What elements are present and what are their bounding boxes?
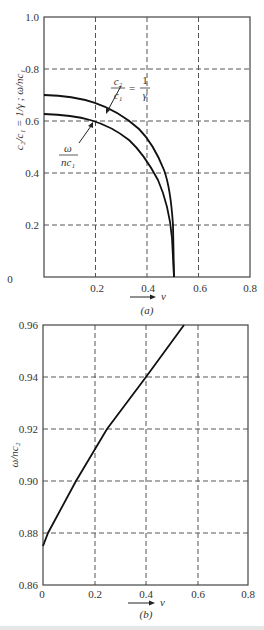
- chart-a: c₂ c₁ = 1 γ ω nc₁ 0.2 0.4 0.6 0.8 1.0 0 …: [7, 11, 257, 317]
- svg-text:0.2: 0.2: [90, 282, 104, 294]
- cropped-caption-strip: [0, 626, 264, 630]
- svg-text:0.8: 0.8: [241, 588, 255, 600]
- chart-b-x-ticks: 0 0.2 0.4 0.6 0.8: [39, 588, 255, 600]
- svg-text:0.6: 0.6: [193, 282, 207, 294]
- svg-text:0.86: 0.86: [19, 579, 39, 591]
- svg-text:c₂: c₂: [114, 75, 123, 87]
- svg-text:0.6: 0.6: [25, 115, 39, 127]
- svg-text:nc₁: nc₁: [61, 156, 75, 168]
- svg-text:0.2: 0.2: [88, 588, 102, 600]
- chart-a-xlabel: v: [161, 290, 166, 302]
- annotation-c2-c1: c₂ c₁ = 1 γ: [111, 74, 150, 101]
- svg-text:0.94: 0.94: [19, 371, 39, 383]
- svg-text:0.88: 0.88: [19, 527, 39, 539]
- chart-a-grid: [44, 17, 250, 277]
- annotation-omega-nc1: ω nc₁: [59, 142, 78, 168]
- chart-b-grid: [43, 325, 248, 585]
- chart-a-curve-c2-c1: [44, 95, 174, 277]
- chart-a-x-ticks: 0 0.2 0.4 0.6 0.8: [7, 273, 257, 294]
- chart-b-ylabel: ω/nc₂: [8, 442, 20, 467]
- svg-text:γ: γ: [143, 89, 148, 101]
- svg-text:ω: ω: [64, 142, 72, 154]
- chart-b-xlabel: v: [160, 596, 165, 608]
- svg-text:0.8: 0.8: [243, 282, 257, 294]
- svg-text:0.96: 0.96: [19, 319, 39, 331]
- svg-text:0: 0: [39, 588, 45, 600]
- svg-text:0.92: 0.92: [19, 423, 38, 435]
- svg-text:c₁: c₁: [114, 89, 123, 101]
- chart-a-y-ticks: 0.2 0.4 0.6 0.8 1.0: [25, 11, 39, 231]
- svg-text:0.4: 0.4: [139, 588, 153, 600]
- chart-b-y-ticks: 0.86 0.88 0.90 0.92 0.94 0.96: [19, 319, 39, 591]
- chart-a-ylabel: c₂/c₁ = 1/γ ; ω/nc₁: [13, 70, 25, 151]
- svg-text:0: 0: [7, 273, 13, 285]
- svg-text:0.4: 0.4: [25, 167, 39, 179]
- arrow-right-icon: [150, 295, 156, 300]
- svg-text:1: 1: [142, 74, 148, 86]
- svg-text:0.90: 0.90: [19, 475, 39, 487]
- chart-b-caption: (b): [140, 608, 153, 621]
- svg-text:0.8: 0.8: [25, 63, 39, 75]
- svg-text:0.2: 0.2: [25, 219, 39, 231]
- svg-text:1.0: 1.0: [25, 11, 39, 23]
- chart-a-caption: (a): [141, 304, 154, 317]
- svg-text:0.4: 0.4: [141, 282, 155, 294]
- arrow-right-icon: [149, 601, 155, 606]
- figure: c₂ c₁ = 1 γ ω nc₁ 0.2 0.4 0.6 0.8 1.0 0 …: [0, 0, 264, 630]
- arrowhead-icon: [106, 107, 111, 114]
- chart-b-curve-omega-nc2: [43, 325, 184, 546]
- arrow-annotation-omega: [79, 126, 91, 143]
- svg-text:0.6: 0.6: [191, 588, 205, 600]
- svg-text:=: =: [129, 82, 135, 94]
- chart-b: 0.86 0.88 0.90 0.92 0.94 0.96 0 0.2 0.4 …: [8, 319, 255, 621]
- chart-a-curve-omega-nc1: [44, 114, 174, 277]
